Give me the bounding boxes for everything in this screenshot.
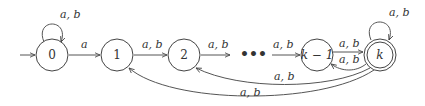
state-label: 1 (113, 48, 121, 62)
edge-k-k-self-loop: a, b (369, 6, 409, 40)
edge-label: a (81, 38, 88, 51)
state-label: 2 (180, 48, 188, 62)
edge-label: a, b (339, 53, 360, 66)
ellipsis: ••• (240, 46, 267, 62)
edge-label: a, b (208, 38, 229, 51)
edge-1-2: a, b (134, 38, 167, 55)
edge-k-2: a, b (196, 68, 370, 85)
edge-label: a, b (274, 70, 295, 83)
edge-label: a, b (60, 8, 81, 21)
edge-k-km1: a, b (331, 53, 366, 70)
edge-2-ellipsis: a, b (201, 38, 230, 55)
edge-label: a, b (142, 38, 163, 51)
edge-km1-k: a, b (333, 37, 363, 52)
state-label: k − 1 (301, 48, 334, 62)
state-k-minus-1: k − 1 (301, 39, 334, 71)
edge-label: a, b (389, 6, 410, 19)
automaton-diagram: a, b a a, b a, b ••• a, b a, b a, b a, b… (0, 0, 425, 106)
state-label: 0 (48, 48, 56, 62)
edge-label: a, b (339, 37, 360, 50)
state-2: 2 (168, 39, 200, 71)
edge-ellipsis-km1: a, b (272, 38, 300, 55)
state-label: k (376, 48, 383, 62)
edge-0-0-self-loop: a, b (42, 8, 80, 42)
edge-label: a, b (273, 38, 294, 51)
edge-k-1: a, b (129, 68, 374, 99)
edge-0-1: a (69, 38, 100, 55)
edge-label: a, b (240, 86, 261, 99)
state-1: 1 (101, 39, 133, 71)
state-k-accepting: k (364, 39, 396, 71)
state-0: 0 (36, 39, 68, 71)
